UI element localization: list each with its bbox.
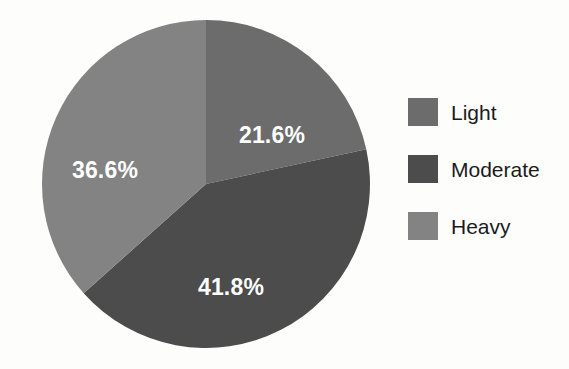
legend-swatch-heavy-icon bbox=[408, 212, 438, 240]
legend-swatch-moderate-icon bbox=[408, 155, 438, 183]
chart-legend: Light Moderate Heavy bbox=[408, 98, 566, 240]
pie-slice-label-moderate: 41.8% bbox=[198, 274, 264, 300]
legend-item-moderate[interactable]: Moderate bbox=[408, 155, 566, 183]
pie-chart-svg: 21.6%41.8%36.6% bbox=[0, 0, 400, 369]
legend-swatch-light-icon bbox=[408, 98, 438, 126]
legend-label-heavy: Heavy bbox=[451, 216, 511, 237]
legend-item-light[interactable]: Light bbox=[408, 98, 566, 126]
legend-label-moderate: Moderate bbox=[451, 159, 540, 180]
pie-chart-figure: 21.6%41.8%36.6% Light Moderate Heavy bbox=[0, 0, 569, 369]
pie-slice-label-light: 21.6% bbox=[239, 122, 305, 148]
legend-label-light: Light bbox=[451, 102, 497, 123]
pie-slice-label-heavy: 36.6% bbox=[72, 157, 138, 183]
legend-item-heavy[interactable]: Heavy bbox=[408, 212, 566, 240]
pie-chart-plot-area: 21.6%41.8%36.6% bbox=[0, 0, 400, 369]
